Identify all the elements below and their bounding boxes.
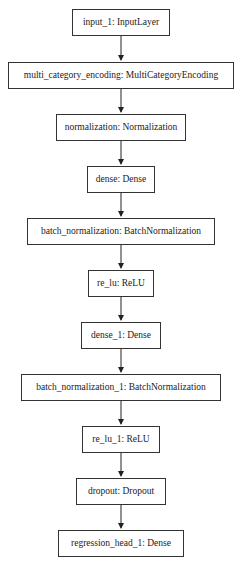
node-multi-category-encoding: multi_category_encoding: MultiCategoryEn… — [8, 62, 234, 89]
node-normalization: normalization: Normalization — [56, 114, 186, 141]
node-dense: dense: Dense — [87, 166, 155, 193]
node-regression-head-1: regression_head_1: Dense — [58, 530, 184, 557]
node-input-layer: input_1: InputLayer — [72, 9, 170, 36]
node-dense-1: dense_1: Dense — [81, 322, 161, 349]
node-re-lu: re_lu: ReLU — [88, 270, 154, 297]
node-dropout: dropout: Dropout — [76, 478, 166, 505]
node-batch-normalization-1: batch_normalization_1: BatchNormalizatio… — [21, 374, 221, 401]
node-re-lu-1: re_lu_1: ReLU — [82, 426, 160, 453]
node-batch-normalization: batch_normalization: BatchNormalization — [27, 218, 215, 245]
